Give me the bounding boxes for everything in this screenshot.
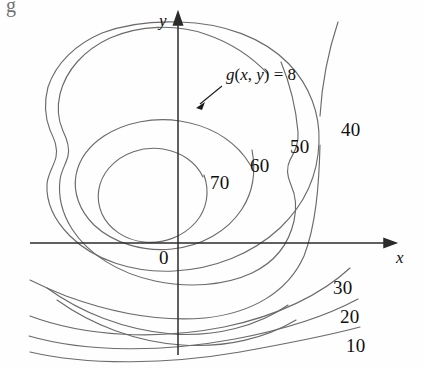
contour-label-10: 10	[346, 336, 365, 355]
contour-label-70: 70	[210, 173, 229, 192]
function-comma: ,	[248, 65, 257, 84]
origin-label: 0	[159, 248, 169, 267]
contour-label-20: 20	[340, 307, 359, 326]
contour-path-70	[98, 148, 207, 242]
contour-map-figure: g	[0, 0, 424, 368]
x-axis-arrowhead	[384, 239, 396, 248]
contour-label-50: 50	[290, 137, 309, 156]
contour-path-lower-inner-b	[57, 300, 296, 346]
function-name-g: g	[226, 65, 235, 84]
contour-path-30	[30, 268, 350, 335]
contour-path-20	[29, 299, 358, 349]
contour-path-lower-inner-a	[47, 288, 288, 334]
function-level-value: 8	[283, 65, 296, 84]
function-level-label: g(x, y) = 8	[226, 66, 296, 83]
contour-label-40: 40	[341, 120, 360, 139]
function-arg-y: y	[256, 65, 264, 84]
y-axis-arrowhead	[174, 12, 183, 25]
function-equals-sign: =	[274, 65, 284, 84]
annotation-leaders-group	[196, 86, 222, 110]
y-axis-label: y	[159, 12, 167, 29]
contour-path-40-upper	[320, 22, 338, 116]
contour-label-30: 30	[333, 278, 352, 297]
function-close-paren: )	[264, 65, 274, 84]
contour-curves-group	[29, 22, 360, 362]
function-label-leader-line	[200, 86, 222, 104]
contour-label-60: 60	[250, 156, 269, 175]
function-arg-x: x	[240, 65, 248, 84]
x-axis-label: x	[396, 249, 404, 266]
